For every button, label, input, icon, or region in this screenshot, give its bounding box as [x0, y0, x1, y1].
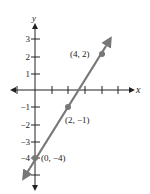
x-axis-label: x	[135, 84, 141, 95]
y-tick-2: 2	[26, 52, 31, 62]
y-tick-1: 1	[26, 69, 31, 79]
y-axis-label: y	[31, 13, 36, 23]
label-point-2-neg1: (2, −1)	[65, 115, 90, 125]
y-tick-neg2: −2	[20, 120, 30, 130]
point-2-neg1	[65, 104, 71, 110]
y-tick-labels: 3 2 1 −1 −2 −3 −4	[20, 34, 30, 163]
label-point-4-2: (4, 2)	[70, 49, 90, 59]
point-4-2	[99, 51, 105, 57]
y-axis: y 3 2 1 −1 −2 −3 −4	[20, 13, 40, 188]
graph-svg: x y 3 2 1 −1 −2 −3	[0, 0, 150, 194]
y-tick-neg4: −4	[20, 153, 30, 163]
y-tick-neg1: −1	[20, 102, 30, 112]
label-point-0-neg4: (0, −4)	[41, 153, 66, 163]
data-points	[32, 51, 105, 161]
point-0-neg4	[32, 155, 38, 161]
y-tick-3: 3	[26, 34, 31, 44]
coordinate-graph: x y 3 2 1 −1 −2 −3	[0, 0, 150, 194]
y-tick-neg3: −3	[20, 137, 30, 147]
